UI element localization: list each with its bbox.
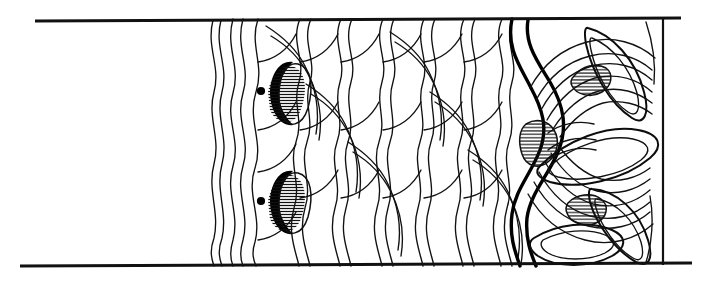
eye-dot-lower bbox=[257, 197, 265, 205]
eye-dot-upper bbox=[257, 87, 265, 95]
figure-root: Decorated band line drawing Black ink li… bbox=[0, 0, 710, 283]
line-art-illustration bbox=[0, 0, 710, 283]
paper-background bbox=[0, 0, 710, 283]
